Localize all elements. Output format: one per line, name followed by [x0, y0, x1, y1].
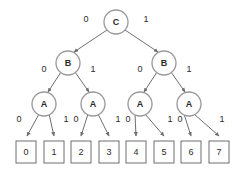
tree-node[interactable]	[104, 10, 128, 34]
tree-edge	[75, 72, 89, 92]
edge-label: 0	[83, 14, 88, 24]
edges-group	[27, 30, 219, 136]
leaf-box[interactable]	[16, 141, 36, 163]
edge-label: 0	[73, 114, 78, 124]
leaf-box[interactable]	[209, 141, 229, 163]
tree-edge	[48, 72, 61, 92]
tree-edge	[49, 114, 54, 136]
edge-label: 1	[167, 114, 172, 124]
tree-node[interactable]	[32, 92, 56, 116]
tree-node[interactable]	[56, 51, 80, 75]
tree-node[interactable]	[152, 51, 176, 75]
tree-edge	[144, 72, 157, 92]
edge-label: 0	[16, 114, 21, 124]
tree-edge	[98, 114, 109, 136]
leaf-box[interactable]	[154, 141, 174, 163]
leaf-box[interactable]	[71, 141, 91, 163]
tree-edge	[27, 114, 39, 136]
tree-node[interactable]	[128, 92, 152, 116]
diagram-canvas: 01234567 CBBAAAA 01010101010101	[0, 0, 232, 172]
leaf-box[interactable]	[181, 141, 201, 163]
tree-edge	[125, 30, 158, 52]
tree-node[interactable]	[81, 92, 105, 116]
tree-edge	[74, 30, 107, 52]
edge-label: 0	[41, 64, 46, 74]
tree-edge	[194, 114, 219, 136]
leaf-box[interactable]	[126, 141, 146, 163]
edge-label: 1	[219, 114, 224, 124]
leaf-box[interactable]	[44, 141, 64, 163]
tree-node[interactable]	[177, 92, 201, 116]
edge-label: 1	[90, 64, 95, 74]
binary-tree-diagram: 01234567 CBBAAAA 01010101010101	[0, 0, 232, 172]
tree-edge	[171, 72, 185, 92]
leaf-boxes-group: 01234567	[16, 141, 229, 163]
tree-edge	[145, 114, 164, 136]
edge-label: 0	[137, 64, 142, 74]
edge-label: 1	[63, 114, 68, 124]
edge-label: 1	[186, 64, 191, 74]
edge-label: 1	[143, 14, 148, 24]
leaf-box[interactable]	[99, 141, 119, 163]
edge-label: 0	[125, 114, 130, 124]
tree-edge	[184, 114, 191, 136]
tree-edge	[81, 114, 88, 136]
tree-nodes-group: CBBAAAA	[32, 10, 201, 116]
edge-label: 1	[115, 114, 120, 124]
tree-edge	[135, 114, 136, 136]
edge-label: 0	[177, 114, 182, 124]
